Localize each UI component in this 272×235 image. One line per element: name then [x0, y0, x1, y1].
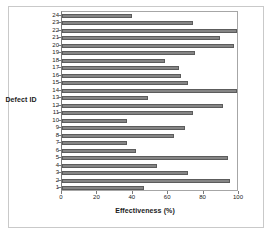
x-axis-title: Effectiveness (%): [40, 207, 250, 214]
y-tick-label: 4: [43, 162, 59, 168]
y-tick-label: 5: [43, 154, 59, 160]
bar-row: [62, 29, 237, 33]
bar: [62, 149, 136, 153]
y-tick-label: 16: [43, 72, 59, 78]
y-tick-label: 15: [43, 79, 59, 85]
bar: [62, 179, 230, 183]
bar: [62, 66, 179, 70]
y-tick-label: 10: [43, 117, 59, 123]
y-tick-label: 7: [43, 139, 59, 145]
bar: [62, 164, 157, 168]
x-tick-label: 20: [84, 194, 108, 200]
bar-row: [62, 21, 237, 25]
bar: [62, 186, 144, 190]
bar: [62, 14, 132, 18]
bar-row: [62, 134, 237, 138]
bar-row: [62, 14, 237, 18]
bar-row: [62, 59, 237, 63]
bar: [62, 29, 237, 33]
x-tick-label: 0: [49, 194, 73, 200]
x-tick-label: 40: [120, 194, 144, 200]
y-tick-label: 6: [43, 147, 59, 153]
bar: [62, 126, 185, 130]
bar: [62, 44, 234, 48]
bar-row: [62, 74, 237, 78]
bar-row: [62, 141, 237, 145]
bar: [62, 134, 174, 138]
bar: [62, 141, 127, 145]
bar-row: [62, 51, 237, 55]
bar: [62, 36, 220, 40]
y-tick-label: 18: [43, 57, 59, 63]
y-tick-label: 2: [43, 177, 59, 183]
plot-area: [61, 11, 238, 191]
bar-row: [62, 156, 237, 160]
bar: [62, 89, 237, 93]
bar-row: [62, 179, 237, 183]
y-tick-label: 9: [43, 124, 59, 130]
bar: [62, 156, 228, 160]
y-tick-label: 12: [43, 102, 59, 108]
bar-row: [62, 149, 237, 153]
bar: [62, 59, 165, 63]
bar-row: [62, 66, 237, 70]
y-tick-label: 11: [43, 109, 59, 115]
bar: [62, 104, 223, 108]
bar: [62, 171, 188, 175]
y-tick-label: 21: [43, 34, 59, 40]
y-tick-label: 1: [43, 184, 59, 190]
y-tick-label: 17: [43, 64, 59, 70]
x-tick-label: 60: [155, 194, 179, 200]
y-tick-label: 24: [43, 12, 59, 18]
bar-row: [62, 186, 237, 190]
y-tick-label: 3: [43, 169, 59, 175]
bar: [62, 81, 188, 85]
bar-row: [62, 126, 237, 130]
bar-row: [62, 119, 237, 123]
y-tick-label: 8: [43, 132, 59, 138]
bar: [62, 51, 195, 55]
y-tick-label: 20: [43, 42, 59, 48]
y-tick-label: 19: [43, 49, 59, 55]
bar-row: [62, 89, 237, 93]
bar: [62, 119, 127, 123]
bar: [62, 96, 148, 100]
bar-row: [62, 104, 237, 108]
bar-row: [62, 44, 237, 48]
bar-row: [62, 36, 237, 40]
bar: [62, 74, 181, 78]
y-tick-labels: 123456789101112131415161718192021222324: [41, 11, 59, 191]
bar: [62, 111, 193, 115]
y-tick-label: 22: [43, 27, 59, 33]
y-tick-label: 13: [43, 94, 59, 100]
bar-row: [62, 111, 237, 115]
x-tick-label: 100: [226, 194, 250, 200]
y-tick-label: 14: [43, 87, 59, 93]
bar-row: [62, 164, 237, 168]
bar: [62, 21, 193, 25]
bar-series: [62, 12, 237, 190]
bar-row: [62, 96, 237, 100]
bar-row: [62, 81, 237, 85]
x-tick-label: 80: [191, 194, 215, 200]
bar-row: [62, 171, 237, 175]
x-tick-labels: 020406080100: [61, 194, 238, 204]
y-tick-label: 23: [43, 19, 59, 25]
chart-figure: Defect ID 123456789101112131415161718192…: [0, 0, 272, 235]
